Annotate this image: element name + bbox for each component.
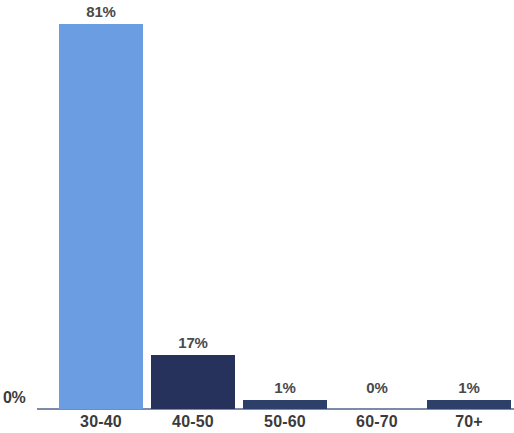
plot-area: 0% 81% 30-40 17% 40-50 1% 50-60 — [0, 0, 514, 433]
category-label-50-60: 50-60 — [239, 412, 331, 431]
y-axis-zero-label: 0% — [3, 389, 35, 407]
bar-rect-40-50[interactable] — [151, 355, 235, 409]
bar-value-label: 1% — [239, 379, 331, 396]
bar-group-50-60: 1% 50-60 — [239, 0, 331, 409]
category-label-70-plus: 70+ — [423, 412, 514, 431]
bar-chart: 0% 81% 30-40 17% 40-50 1% 50-60 — [0, 0, 514, 433]
category-label-40-50: 40-50 — [147, 412, 239, 431]
bar-group-60-70: 0% 60-70 — [331, 0, 423, 409]
bar-rect-70-plus[interactable] — [427, 400, 511, 409]
bar-group-30-40: 81% 30-40 — [55, 0, 147, 409]
bar-group-70-plus: 1% 70+ — [423, 0, 514, 409]
bar-rect-50-60[interactable] — [243, 400, 327, 409]
bar-value-label: 1% — [423, 379, 514, 396]
category-label-60-70: 60-70 — [331, 412, 423, 431]
bar-value-label: 17% — [147, 334, 239, 351]
category-label-30-40: 30-40 — [55, 412, 147, 431]
bar-value-label: 81% — [55, 3, 147, 20]
bar-group-40-50: 17% 40-50 — [147, 0, 239, 409]
bar-value-label: 0% — [331, 379, 423, 396]
bar-rect-30-40[interactable] — [59, 24, 143, 409]
